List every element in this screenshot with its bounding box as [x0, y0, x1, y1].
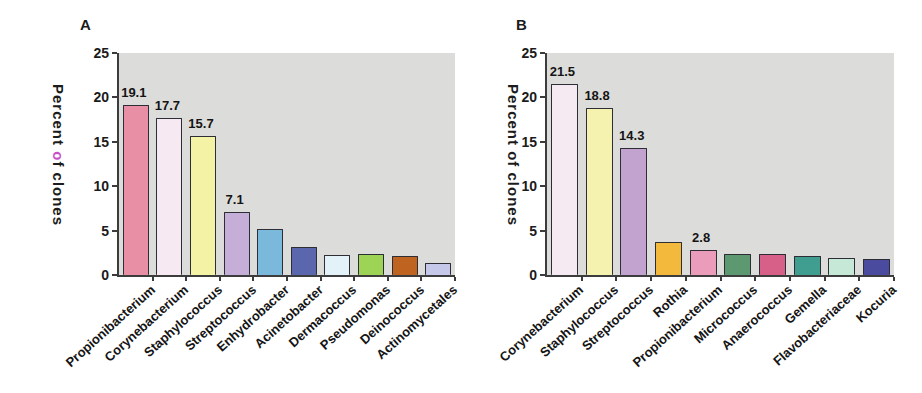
x-tick-mark: [320, 277, 322, 281]
bar-flavobacteriaceae: [828, 258, 855, 275]
x-tick-mark: [824, 277, 826, 281]
bar-propionibacterium: [123, 105, 149, 275]
y-tick-label: 10: [81, 177, 109, 195]
bar-propionibacterium: [690, 250, 717, 275]
panel-a: A Percent of clones 051015202519.1Propio…: [0, 0, 461, 393]
x-tick-mark: [387, 277, 389, 281]
bar-acinetobacter: [291, 247, 317, 275]
bar-value-label: 7.1: [203, 192, 267, 207]
bar-value-label: 18.8: [565, 88, 629, 103]
bar-corynebacterium: [551, 84, 578, 275]
y-tick-mark: [112, 274, 117, 276]
x-tick-mark: [754, 277, 756, 281]
bar-value-label: 21.5: [530, 64, 594, 79]
x-tick-mark: [152, 277, 154, 281]
x-tick-mark: [650, 277, 652, 281]
y-axis-label: Percent of clones: [50, 84, 67, 226]
y-tick-label: 15: [509, 133, 537, 151]
y-tick-mark: [112, 141, 117, 143]
bar-pseudomonas: [358, 254, 384, 275]
x-tick-mark: [185, 277, 187, 281]
y-axis-label-text: Percent: [50, 84, 67, 151]
x-tick-mark: [353, 277, 355, 281]
plot-area-b: 051015202521.5Corynebacterium18.8Staphyl…: [545, 53, 894, 277]
y-tick-mark: [540, 274, 545, 276]
y-tick-mark: [540, 52, 545, 54]
y-tick-label: 15: [81, 133, 109, 151]
x-tick-mark: [789, 277, 791, 281]
y-tick-mark: [112, 52, 117, 54]
x-tick-mark: [615, 277, 617, 281]
x-tick-mark: [420, 277, 422, 281]
figure: A Percent of clones 051015202519.1Propio…: [0, 0, 922, 393]
bar-deinococcus: [392, 256, 418, 275]
bar-gemella: [794, 256, 821, 275]
bar-enhydrobacter: [257, 229, 283, 275]
bar-anaerococcus: [759, 254, 786, 275]
y-tick-label: 25: [509, 44, 537, 62]
y-tick-label: 5: [509, 222, 537, 240]
bar-micrococcus: [724, 254, 751, 275]
y-tick-label: 20: [509, 88, 537, 106]
x-tick-mark: [858, 277, 860, 281]
x-tick-mark: [454, 277, 456, 281]
y-tick-label: 0: [81, 266, 109, 284]
panel-b-letter: B: [516, 16, 527, 33]
y-tick-mark: [112, 185, 117, 187]
bar-value-label: 15.7: [169, 116, 233, 131]
y-tick-label: 10: [509, 177, 537, 195]
plot-area-a: 051015202519.1Propionibacterium17.7Coryn…: [117, 53, 455, 277]
panel-a-letter: A: [80, 16, 91, 33]
bar-value-label: 2.8: [669, 230, 733, 245]
y-tick-label: 25: [81, 44, 109, 62]
bar-streptococcus: [224, 212, 250, 275]
x-tick-mark: [219, 277, 221, 281]
x-tick-mark: [252, 277, 254, 281]
bar-value-label: 14.3: [600, 128, 664, 143]
bar-value-label: 17.7: [135, 98, 199, 113]
bar-actinomycetales: [425, 263, 451, 275]
x-tick-mark: [685, 277, 687, 281]
bar-kocuria: [863, 259, 890, 275]
x-tick-mark: [286, 277, 288, 281]
y-tick-mark: [540, 185, 545, 187]
y-axis-label-text: o: [50, 151, 67, 161]
bar-rothia: [655, 242, 682, 275]
bar-corynebacterium: [156, 118, 182, 275]
x-tick-mark: [893, 277, 895, 281]
bar-streptococcus: [620, 148, 647, 275]
y-tick-label: 0: [509, 266, 537, 284]
y-tick-label: 5: [81, 222, 109, 240]
x-tick-mark: [581, 277, 583, 281]
y-tick-mark: [112, 230, 117, 232]
x-tick-mark: [720, 277, 722, 281]
y-axis-label-text: f clones: [50, 161, 67, 226]
bar-dermacoccus: [324, 255, 350, 275]
y-tick-mark: [540, 230, 545, 232]
y-tick-mark: [540, 141, 545, 143]
y-tick-mark: [540, 96, 545, 98]
panel-b: B Percent of clones 051015202521.5Coryne…: [461, 0, 922, 393]
